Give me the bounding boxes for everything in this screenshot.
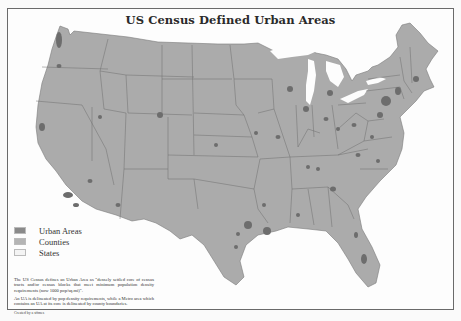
legend-item-states: States xyxy=(14,247,82,258)
map-legend: Urban Areas Counties States xyxy=(14,225,82,258)
note-delineation: An UA is delineated by pop density requi… xyxy=(14,296,154,307)
legend-item-counties: Counties xyxy=(14,236,82,247)
map-credit: Created by a sffmes xyxy=(14,311,44,315)
map-notes: The US Census defines an Urban Area as "… xyxy=(14,277,154,309)
states-swatch xyxy=(14,249,26,256)
legend-label: States xyxy=(39,248,59,258)
counties-swatch xyxy=(14,238,26,245)
map-frame: US Census Defined Urban Areas xyxy=(7,8,454,310)
legend-label: Counties xyxy=(39,237,69,247)
us-map xyxy=(8,9,455,311)
note-definition: The US Census defines an Urban Area as "… xyxy=(14,277,154,293)
legend-label: Urban Areas xyxy=(39,226,82,236)
legend-item-urban-areas: Urban Areas xyxy=(14,225,82,236)
urban-areas-swatch xyxy=(14,227,26,234)
